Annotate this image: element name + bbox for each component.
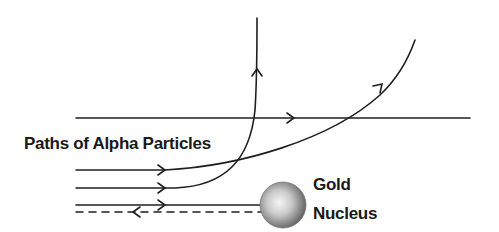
path-slight-deflection — [76, 40, 415, 175]
arrow-up-right-icon — [373, 84, 382, 93]
diagram-title: Paths of Alpha Particles — [24, 134, 211, 154]
nucleus-label-gold: Gold — [313, 175, 351, 195]
path-large-deflection — [76, 18, 262, 193]
path-head-on — [76, 200, 262, 210]
rutherford-scattering-diagram: Paths of Alpha Particles Gold Nucleus — [0, 0, 499, 232]
arrow-left-icon — [133, 207, 140, 217]
diagram-canvas — [0, 0, 499, 232]
gold-nucleus-sphere — [260, 182, 306, 228]
path-rebound-dashed — [76, 207, 262, 217]
path-straight-through — [76, 113, 470, 123]
nucleus-label-nucleus: Nucleus — [313, 204, 377, 224]
